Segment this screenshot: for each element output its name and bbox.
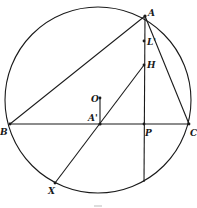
label-c: C	[190, 128, 197, 138]
point-c	[188, 123, 191, 126]
point-l-prime	[143, 40, 146, 43]
point-b	[9, 123, 12, 126]
label-a: A	[147, 8, 155, 18]
point-h	[143, 64, 146, 67]
point-o	[99, 97, 102, 100]
label-h: H	[146, 60, 156, 70]
point-a	[143, 14, 146, 17]
side-ac	[145, 16, 189, 124]
point-a-prime	[98, 122, 101, 125]
label-o: O	[91, 94, 99, 104]
label-l-prime: L'	[146, 37, 156, 47]
geometry-diagram: A L' H O A' B P C X	[0, 0, 197, 208]
point-p	[143, 123, 146, 126]
label-x: X	[47, 186, 56, 196]
point-x	[54, 182, 57, 185]
label-p: P	[144, 128, 152, 138]
side-ab	[10, 16, 145, 124]
label-a-prime: A'	[87, 113, 98, 123]
label-b: B	[0, 127, 8, 137]
